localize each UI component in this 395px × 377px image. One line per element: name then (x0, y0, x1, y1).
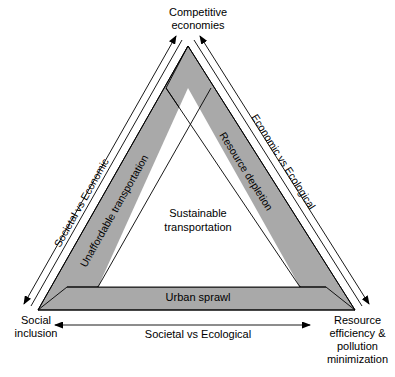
corner-label-social-inclusion: Social inclusion (0, 314, 72, 340)
diagram-root: Societal vs Economic Unaffordable transp… (0, 0, 395, 377)
corner-label-resource-efficiency: Resource efficiency & pollution minimiza… (320, 314, 395, 366)
band-label-urban-sprawl: Urban sprawl (140, 291, 256, 303)
center-label-sustainable-transportation: Sustainable transportation (136, 206, 260, 234)
corner-label-competitive-economies: Competitive economies (136, 6, 260, 32)
axis-label-societal-vs-ecological: Societal vs Ecological (120, 328, 276, 340)
